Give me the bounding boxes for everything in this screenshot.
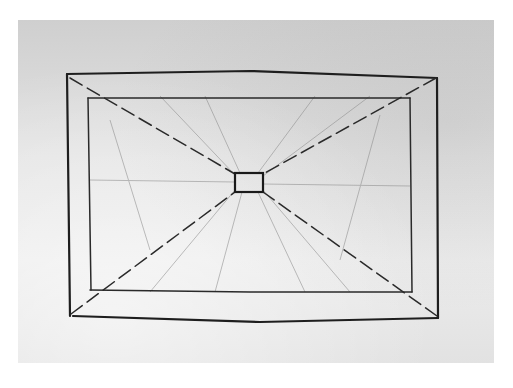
perspective-sketch bbox=[0, 0, 513, 388]
center-box bbox=[235, 173, 263, 192]
corner-diagonals bbox=[70, 78, 437, 316]
